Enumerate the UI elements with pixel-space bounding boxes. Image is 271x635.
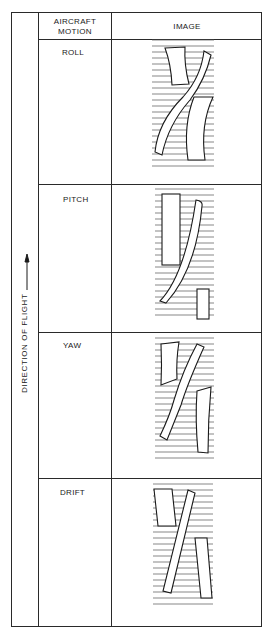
yaw-distortion-diagram [155,338,214,458]
roll-distortion-diagram [152,40,214,166]
drift-distortion-diagram [153,484,213,604]
arrow-up-icon [25,254,29,290]
pitch-distortion-diagram [155,189,214,319]
distortion-diagrams [0,0,271,635]
